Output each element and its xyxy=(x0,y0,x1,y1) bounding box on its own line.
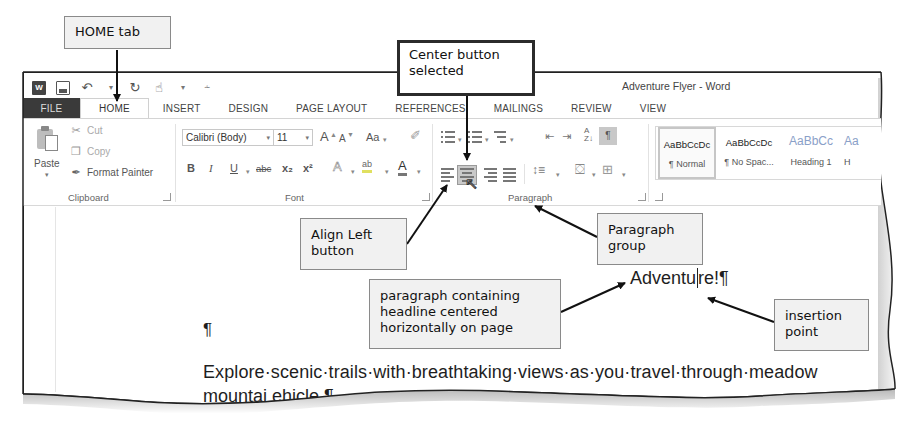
callout-text: HOME tab xyxy=(75,24,140,39)
callout-home-tab: HOME tab xyxy=(64,16,171,49)
callout-text: Center button xyxy=(409,47,523,63)
callout-text: Paragraph xyxy=(608,222,692,238)
callout-center-button: Center button selected xyxy=(397,40,535,96)
callout-text: headline centered xyxy=(380,304,550,320)
callout-insertion-point: insertion point xyxy=(774,299,869,351)
callout-text: group xyxy=(608,238,692,254)
callout-text: button xyxy=(311,243,396,259)
callout-headline-paragraph: paragraph containing headline centered h… xyxy=(369,279,561,349)
callout-text: paragraph containing xyxy=(380,288,550,304)
callout-paragraph-group: Paragraph group xyxy=(597,213,703,265)
callout-text: selected xyxy=(409,63,523,79)
callout-text: horizontally on page xyxy=(380,320,550,336)
callout-align-left: Align Left button xyxy=(300,218,407,270)
callout-text: Align Left xyxy=(311,227,396,243)
callout-text: point xyxy=(785,324,858,340)
callout-text: insertion xyxy=(785,308,858,324)
